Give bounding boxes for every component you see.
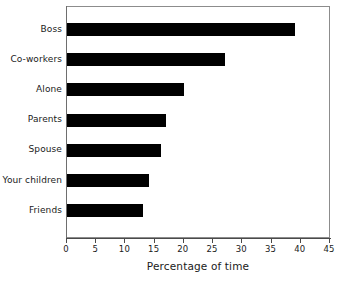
- x-tick-label-45: 45: [323, 244, 334, 254]
- bar-your-children: [67, 174, 149, 187]
- y-axis-label-spouse: Spouse: [0, 144, 62, 154]
- x-tick-mark-0: [66, 239, 67, 243]
- y-axis-label-your-children: Your children: [0, 175, 62, 185]
- x-axis-title: Percentage of time: [66, 260, 330, 272]
- x-tick-label-0: 0: [63, 244, 69, 254]
- x-tick-label-20: 20: [177, 244, 188, 254]
- x-tick-label-35: 35: [265, 244, 276, 254]
- bar-alone: [67, 83, 184, 96]
- x-tick-mark-10: [124, 239, 125, 243]
- bar-chart: BossCo-workersAloneParentsSpouseYour chi…: [0, 0, 346, 281]
- bar-rect: [67, 23, 295, 36]
- x-tick-label-30: 30: [236, 244, 247, 254]
- bars-layer: [67, 6, 330, 238]
- bar-co-workers: [67, 53, 225, 66]
- x-tick-label-10: 10: [119, 244, 130, 254]
- bar-rect: [67, 83, 184, 96]
- x-tick-mark-40: [300, 239, 301, 243]
- x-tick-mark-15: [154, 239, 155, 243]
- y-axis-label-boss: Boss: [0, 24, 62, 34]
- bar-parents: [67, 114, 166, 127]
- y-axis-label-friends: Friends: [0, 205, 62, 215]
- x-tick-label-5: 5: [92, 244, 98, 254]
- y-axis-label-parents: Parents: [0, 114, 62, 124]
- x-tick-mark-25: [212, 239, 213, 243]
- bar-spouse: [67, 144, 161, 157]
- x-tick-mark-35: [271, 239, 272, 243]
- bar-rect: [67, 114, 166, 127]
- bar-rect: [67, 204, 143, 217]
- bar-friends: [67, 204, 143, 217]
- bar-rect: [67, 174, 149, 187]
- x-tick-mark-20: [183, 239, 184, 243]
- y-axis-label-alone: Alone: [0, 84, 62, 94]
- x-tick-mark-5: [95, 239, 96, 243]
- x-tick-label-40: 40: [294, 244, 305, 254]
- x-tick-mark-30: [241, 239, 242, 243]
- y-axis-label-co-workers: Co-workers: [0, 54, 62, 64]
- x-axis-line: [66, 238, 331, 239]
- bar-boss: [67, 23, 295, 36]
- x-tick-mark-45: [329, 239, 330, 243]
- bar-rect: [67, 144, 161, 157]
- x-tick-label-25: 25: [207, 244, 218, 254]
- x-tick-label-15: 15: [148, 244, 159, 254]
- bar-rect: [67, 53, 225, 66]
